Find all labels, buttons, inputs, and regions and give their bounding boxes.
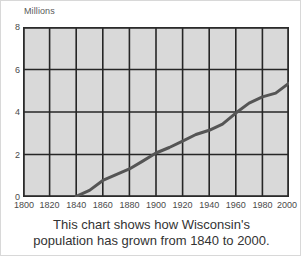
- x-tick-label-1920: 1920: [173, 200, 193, 210]
- x-tick-label-1840: 1840: [66, 200, 86, 210]
- y-axis-unit-label: Millions: [24, 6, 55, 16]
- x-tick-label-1860: 1860: [93, 200, 113, 210]
- x-tick-label-1800: 1800: [14, 200, 34, 210]
- x-tick-label-1940: 1940: [199, 200, 219, 210]
- y-tick-label-6: 6: [4, 65, 20, 75]
- chart-plot-svg: [23, 27, 289, 197]
- chart-figure: Millions 0 2 4 6 8: [0, 0, 301, 256]
- chart-caption: This chart shows how Wisconsin's populat…: [1, 217, 301, 249]
- x-tick-label-1960: 1960: [226, 200, 246, 210]
- y-tick-label-2: 2: [4, 150, 20, 160]
- y-tick-label-8: 8: [4, 22, 20, 32]
- x-tick-label-1820: 1820: [40, 200, 60, 210]
- x-tick-label-1880: 1880: [119, 200, 139, 210]
- x-tick-label-1900: 1900: [146, 200, 166, 210]
- plot-area: [23, 27, 289, 197]
- x-axis-tick-label-group: 1800 1820 1840 1860 1880 1900 1920 1940 …: [23, 200, 289, 214]
- y-axis-tick-label-group: 0 2 4 6 8: [1, 27, 20, 197]
- caption-line-2: population has grown from 1840 to 2000.: [1, 233, 301, 249]
- y-tick-label-4: 4: [4, 107, 20, 117]
- x-tick-label-1980: 1980: [252, 200, 272, 210]
- x-tick-label-2000: 2000: [277, 200, 297, 210]
- caption-line-1: This chart shows how Wisconsin's: [1, 217, 301, 233]
